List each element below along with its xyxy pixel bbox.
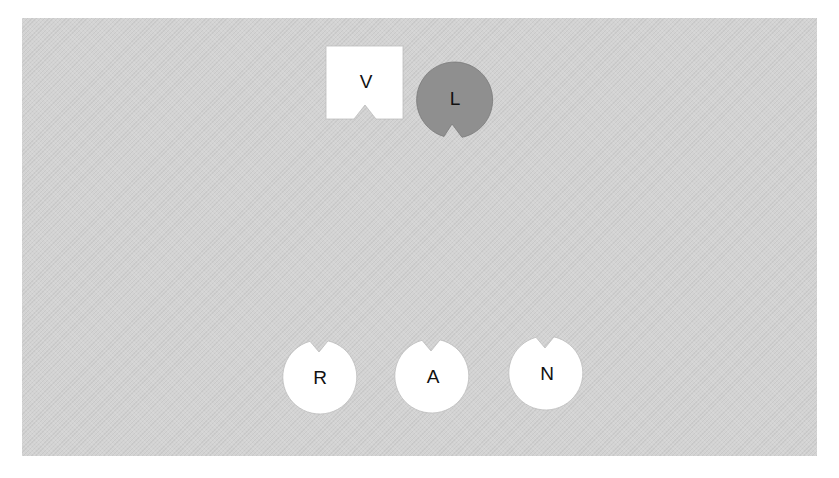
stage: V L R A N (0, 0, 839, 478)
shape-label: R (313, 367, 327, 388)
shape-label: N (540, 363, 554, 384)
shape-r[interactable]: R (283, 341, 357, 414)
shapes-layer: V L R A N (0, 0, 839, 478)
shape-label: V (360, 71, 373, 92)
shape-label: L (450, 88, 461, 109)
shape-l[interactable]: L (417, 62, 493, 137)
shape-a[interactable]: A (395, 340, 469, 413)
shape-label: A (427, 366, 440, 387)
shape-v[interactable]: V (326, 46, 403, 119)
shape-n[interactable]: N (509, 337, 583, 410)
